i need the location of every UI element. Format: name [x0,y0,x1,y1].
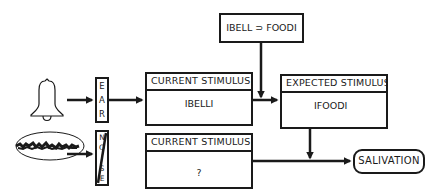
current-stimulus-box-bell: CURRENT STIMULUS IBELLI [145,72,253,126]
current-stimulus-value: IBELLI [147,98,251,109]
ear-letter: R [99,109,105,119]
rule-box: IBELL ⊃ FOODI [219,13,304,43]
expected-stimulus-value: IFOODI [282,100,386,111]
salivation-output: SALIVATION [353,149,425,174]
ear-letter: E [99,81,104,91]
expected-stimulus-header: EXPECTED STIMULUS [282,76,386,93]
noise-scribble-icon [16,132,84,160]
current-stimulus-header: CURRENT STIMULUS [147,135,251,152]
bell-icon [31,79,63,121]
strike-through-line [97,132,107,184]
ear-letter: A [99,95,105,105]
current-stimulus-box-noise: CURRENT STIMULUS ? [145,133,253,189]
noise-box: N O I S E [95,130,109,186]
current-stimulus-header: CURRENT STIMULUS [147,74,251,91]
ear-box: E A R [95,77,109,123]
rule-text: IBELL ⊃ FOODI [226,22,296,33]
expected-stimulus-box: EXPECTED STIMULUS IFOODI [280,74,388,129]
current-stimulus-value: ? [147,167,251,178]
salivation-label: SALIVATION [358,155,420,166]
